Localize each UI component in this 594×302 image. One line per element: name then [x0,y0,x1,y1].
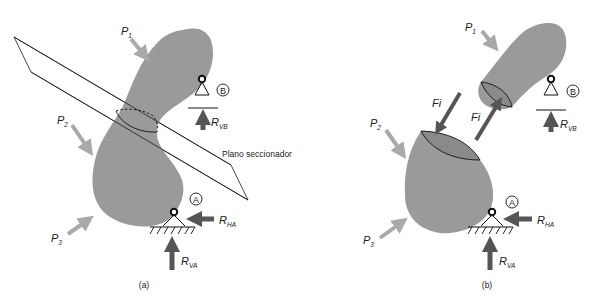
rva-b-sub: VA [507,262,515,269]
panel-b: Fi Fi P1 P2 P3 B RVB [363,21,579,290]
rha-b-sub: HA [545,221,554,228]
svg-text:RHA: RHA [219,214,236,228]
fi-upper-label: Fi [471,111,481,123]
rha-b-main: R [537,214,545,226]
svg-text:RVA: RVA [181,255,197,269]
reaction-rvb-b: RVB [551,118,577,132]
svg-text:P2: P2 [57,114,68,128]
svg-text:P2: P2 [370,117,381,131]
fi-lower-label: Fi [432,97,442,109]
load-p2: P2 [57,114,89,150]
load-p2-b: P2 [370,117,402,153]
load-p3: P3 [51,220,88,246]
rvb-b-sub: VB [568,125,577,132]
svg-text:RVB: RVB [560,118,577,132]
rva-main: R [181,255,189,267]
panel-a: P1 P2 P3 B RVB [14,25,292,290]
internal-force-upper: Fi [471,102,499,140]
reaction-rva-b: RVA [490,243,515,270]
svg-text:P1: P1 [465,21,476,35]
rvb-b-main: R [560,118,568,130]
rva-b-main: R [499,255,507,267]
load-p1-b-sub: 1 [472,28,476,35]
reaction-rva: RVA [172,243,197,270]
reaction-rha-b: RHA [510,214,554,228]
svg-text:RVA: RVA [499,255,515,269]
caption-a: (a) [139,280,150,290]
free-body-diagram-figure: P1 P2 P3 B RVB [0,0,594,302]
plane-label: Plano seccionador [222,149,292,159]
load-p1-b: P1 [465,21,494,46]
svg-text:RVB: RVB [211,116,228,130]
load-p3-b: P3 [363,222,402,248]
rvb-main: R [211,116,219,128]
load-p3-sub: 3 [58,239,62,246]
reaction-rvb: RVB [203,116,228,130]
svg-text:P3: P3 [363,234,374,248]
rha-main: R [219,214,227,226]
rvb-sub: VB [219,123,228,130]
support-b-panel-b: B [536,76,579,110]
load-p2-sub: 2 [63,121,68,128]
load-p3-b-sub: 3 [370,241,374,248]
support-b-label: B [220,86,226,96]
support-a-label-b: A [509,198,515,208]
support-a-label: A [193,195,199,205]
caption-b: (b) [482,280,493,290]
rha-sub: HA [227,221,236,228]
svg-text:RHA: RHA [537,214,554,228]
load-p2-b-sub: 2 [376,124,381,131]
svg-text:P3: P3 [51,232,62,246]
support-b-label-b: B [570,87,576,97]
svg-text:P1: P1 [121,25,132,39]
load-p1-sub: 1 [128,32,132,39]
load-p1: P1 [121,25,145,56]
internal-force-lower: Fi [432,93,460,130]
reaction-rha: RHA [193,214,236,228]
rva-sub: VA [189,262,197,269]
